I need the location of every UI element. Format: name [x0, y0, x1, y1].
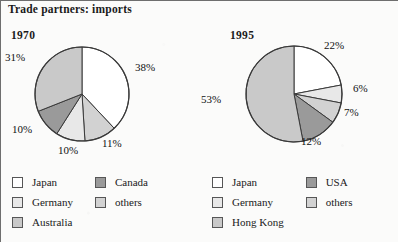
legend-swatch-others-icon — [306, 197, 317, 208]
legend-item-germany-1995[interactable]: Germany — [212, 193, 284, 211]
pie-value-label: 31% — [5, 51, 25, 63]
chart-panel-1970: 1970 Japan Germany Australia Canada othe… — [1, 1, 200, 242]
pie-value-label: 11% — [102, 137, 122, 149]
chart-panel-1995: 1995 Japan Germany Hong Kong USA others — [200, 1, 398, 242]
legend-1970: Japan Germany Australia Canada others — [12, 173, 148, 231]
pie-value-label: 10% — [12, 123, 32, 135]
legend-swatch-canada-icon — [95, 177, 106, 188]
pie-slice-hong-kong[interactable] — [246, 46, 303, 142]
legend-swatch-japan-icon — [212, 177, 223, 188]
pie-value-label: 6% — [353, 82, 368, 94]
pie-value-label: 7% — [344, 106, 359, 118]
legend-item-australia-1970[interactable]: Australia — [12, 213, 73, 231]
pie-value-label: 22% — [324, 39, 344, 51]
legend-label: Hong Kong — [232, 216, 284, 228]
legend-item-usa-1995[interactable]: USA — [306, 173, 353, 191]
legend-item-japan-1995[interactable]: Japan — [212, 173, 284, 191]
pie-chart-1995 — [245, 45, 343, 143]
legend-label: Australia — [32, 216, 72, 228]
legend-item-others-1995[interactable]: others — [306, 193, 353, 211]
legend-swatch-usa-icon — [306, 177, 317, 188]
legend-label: Germany — [232, 196, 273, 208]
legend-label: Japan — [232, 176, 257, 188]
legend-swatch-australia-icon — [12, 217, 23, 228]
legend-swatch-germany-icon — [212, 197, 223, 208]
legend-item-canada-1970[interactable]: Canada — [95, 173, 148, 191]
legend-label: Germany — [32, 196, 73, 208]
trade-partners-figure: Trade partners: imports 1970 Japan Germa… — [0, 0, 398, 242]
legend-swatch-hong-kong-icon — [212, 217, 223, 228]
pie-value-label: 12% — [301, 135, 321, 147]
pie-value-label: 38% — [135, 61, 155, 73]
chart-year-label-1970: 1970 — [11, 29, 35, 41]
legend-swatch-germany-icon — [12, 197, 23, 208]
legend-item-japan-1970[interactable]: Japan — [12, 173, 73, 191]
legend-swatch-others-icon — [95, 197, 106, 208]
legend-label: others — [326, 196, 353, 208]
legend-label: Japan — [32, 176, 57, 188]
legend-item-germany-1970[interactable]: Germany — [12, 193, 73, 211]
pie-chart-1970 — [34, 46, 130, 142]
pie-value-label: 53% — [201, 93, 221, 105]
legend-1995: Japan Germany Hong Kong USA others — [212, 173, 353, 231]
legend-item-others-1970[interactable]: others — [95, 193, 148, 211]
chart-year-label-1995: 1995 — [230, 29, 254, 41]
legend-item-hong-kong-1995[interactable]: Hong Kong — [212, 213, 284, 231]
legend-swatch-japan-icon — [12, 177, 23, 188]
legend-label: USA — [326, 176, 348, 188]
pie-value-label: 10% — [58, 144, 78, 156]
legend-label: Canada — [115, 176, 148, 188]
legend-label: others — [115, 196, 142, 208]
